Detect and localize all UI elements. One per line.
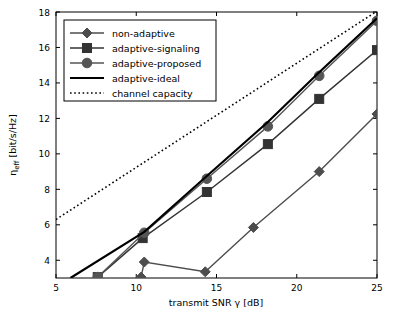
x-axis-label: transmit SNR γ [dB] [169,297,263,308]
figure-container: 510152025 4681012141618 transmit SNR γ [… [0,0,396,318]
y-tick-label: 16 [39,43,51,53]
legend-item-non-adaptive: non-adaptive [70,28,175,39]
y-tick-label: 8 [44,185,50,195]
x-tick-label: 10 [131,283,143,293]
y-axis-label-unit: [bit/s/Hz] [7,114,18,160]
svg-text:ηeff [bit/s/Hz]: ηeff [bit/s/Hz] [7,114,21,175]
legend-item-label: adaptive-proposed [112,58,201,69]
y-axis-label-subscript: eff [13,160,21,169]
legend-item-label: adaptive-ideal [112,73,180,84]
y-tick-label: 10 [39,149,51,159]
x-tick-label: 15 [211,283,222,293]
y-axis-label: ηeff [bit/s/Hz] [7,114,21,175]
x-tick-label: 25 [371,283,382,293]
y-tick-label: 18 [39,8,51,18]
y-tick-label: 4 [44,256,50,266]
x-tick-label: 20 [291,283,303,293]
legend-item-label: non-adaptive [112,28,175,39]
y-tick-label: 12 [39,114,50,124]
y-tick-label: 6 [44,220,50,230]
y-tick-label: 14 [39,78,51,88]
legend-item-adaptive-signaling: adaptive-signaling [70,43,200,54]
legend-item-label: adaptive-signaling [112,43,200,54]
line-chart: 510152025 4681012141618 transmit SNR γ [… [0,0,396,318]
legend-item-label: channel capacity [112,88,193,99]
x-tick-label: 5 [53,283,59,293]
legend: non-adaptiveadaptive-signalingadaptive-p… [64,20,216,101]
legend-item-adaptive-proposed: adaptive-proposed [70,58,201,69]
